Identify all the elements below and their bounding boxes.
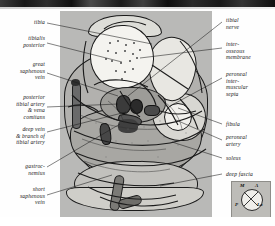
orientation-key: M A P La bbox=[231, 181, 271, 218]
label-posterior-tibial-artery: posterior tibial artery & vena comitans bbox=[1, 94, 45, 120]
orientation-label-medial: M bbox=[240, 183, 244, 188]
scan-artifact-strip bbox=[0, 0, 275, 7]
label-tibialis-posterior: tibialis posterior bbox=[2, 35, 45, 48]
anatomy-plate-inner bbox=[60, 11, 212, 217]
orientation-label-anterior: A bbox=[255, 183, 258, 188]
label-great-saphenous-vein: great saphenous vein bbox=[2, 61, 45, 81]
label-peroneal-artery: peroneal artery bbox=[226, 134, 273, 147]
orientation-label-lateral: La bbox=[257, 202, 263, 207]
anatomy-plate bbox=[60, 11, 212, 217]
label-short-saphenous-vein: short saphenous vein bbox=[2, 186, 45, 206]
anatomy-linework bbox=[60, 11, 212, 217]
label-tibia: tibia bbox=[2, 19, 45, 26]
page-bottom-margin bbox=[0, 217, 275, 226]
label-peroneal-intermuscular-septa: peroneal inter- muscular septa bbox=[226, 71, 273, 97]
label-soleus: soleus bbox=[226, 155, 273, 162]
label-fibula: fibula bbox=[226, 121, 273, 128]
label-tibial-nerve: tibial nerve bbox=[226, 17, 273, 30]
label-deep-fascia: deep fascia bbox=[226, 171, 273, 178]
label-deep-vein-branch: deep vein & branch of tibial artery bbox=[1, 126, 45, 146]
orientation-label-posterior: P bbox=[235, 202, 238, 207]
label-interosseous-membrane: inter- osseous membrane bbox=[226, 41, 273, 61]
scan-artifact-strip-light bbox=[0, 7, 275, 9]
figure-page: tibia tibialis posterior great saphenous… bbox=[0, 0, 275, 226]
label-gastrocnemius: gastroc- nemius bbox=[2, 163, 45, 176]
